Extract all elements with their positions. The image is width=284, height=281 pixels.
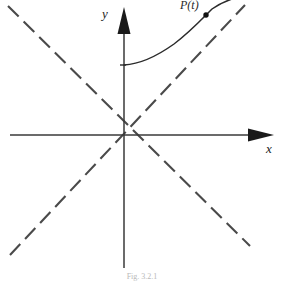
y-axis-arrowhead-icon bbox=[118, 7, 131, 34]
point-p-label: P(t) bbox=[179, 0, 199, 12]
y-axis-label: y bbox=[100, 6, 108, 21]
point-p-marker bbox=[203, 12, 208, 17]
x-axis-arrowhead-icon bbox=[248, 129, 274, 142]
x-axis-label: x bbox=[265, 141, 272, 156]
asymptote-falling-line bbox=[8, 6, 250, 246]
asymptotes-group bbox=[8, 5, 250, 255]
point-p-group: P(t) bbox=[179, 0, 209, 18]
hyperbola-diagram: P(t) y x Fig. 3.2.1 bbox=[0, 0, 284, 281]
hyperbola-curve-group bbox=[120, 0, 232, 65]
figure-caption: Fig. 3.2.1 bbox=[127, 272, 158, 281]
figure-container: P(t) y x Fig. 3.2.1 bbox=[0, 0, 284, 281]
hyperbola-branch-path bbox=[124, 0, 232, 65]
